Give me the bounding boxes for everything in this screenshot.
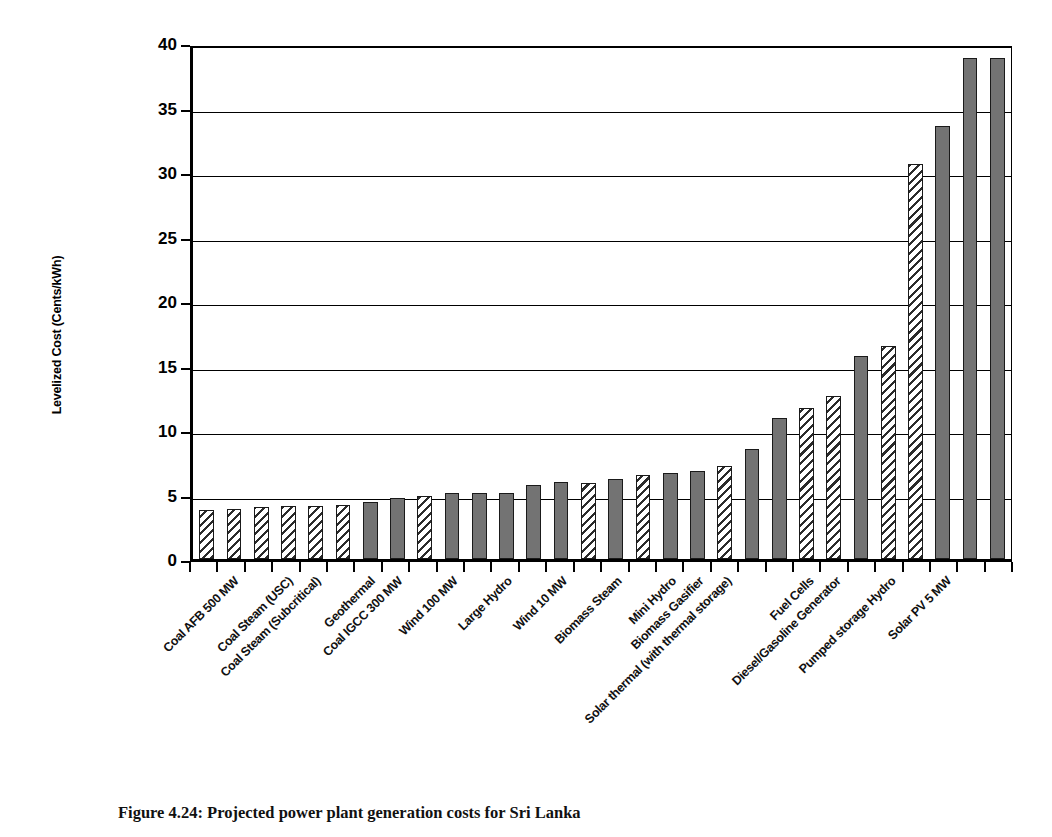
bar [799,408,814,559]
x-tick-mark [272,562,299,573]
bar [636,475,651,559]
x-tick-mark [957,562,984,573]
bar-slot [384,47,411,559]
x-axis-ticks [190,562,1012,573]
bar-slot [711,47,738,559]
bar-slot [302,47,329,559]
bar [935,126,950,559]
plot-area [190,46,1012,562]
x-axis-category-label: Wind 10 MW [510,574,569,633]
bar [281,506,296,559]
x-tick-mark [738,562,765,573]
bar [908,164,923,559]
bar [881,346,896,559]
y-tick-mark [181,303,190,305]
x-tick-mark [574,562,601,573]
x-tick-mark [656,562,683,573]
y-tick-label: 35 [158,100,177,120]
bar [663,473,678,559]
bar-slot [602,47,629,559]
x-tick-mark [327,562,354,573]
bar-slot [902,47,929,559]
x-tick-mark [848,562,875,573]
x-tick-mark [711,562,738,573]
x-tick-mark [930,562,957,573]
bar [227,509,242,559]
bar [690,471,705,559]
bar-slot [820,47,847,559]
x-tick-mark [601,562,628,573]
bar-slot [438,47,465,559]
x-tick-mark [245,562,272,573]
bar [526,485,541,559]
figure-caption: Figure 4.24: Projected power plant gener… [118,800,948,826]
bar [772,418,787,559]
bar [472,493,487,559]
bar-slot [547,47,574,559]
bar [363,502,378,559]
bar [963,58,978,559]
y-tick-label: 5 [168,487,177,507]
bar-series [193,47,1011,559]
bar [336,505,351,559]
bar-slot [657,47,684,559]
bar-slot [220,47,247,559]
bar-slot [684,47,711,559]
bar-slot [738,47,765,559]
x-tick-mark [985,562,1012,573]
bar-slot [493,47,520,559]
bar [445,493,460,559]
y-tick-label: 10 [158,422,177,442]
x-tick-mark [382,562,409,573]
x-axis-category-label: Wind 100 MW [396,574,460,638]
x-tick-mark [354,562,381,573]
x-tick-mark [464,562,491,573]
bar [745,449,760,559]
y-tick-label: 40 [158,35,177,55]
bar [717,466,732,559]
y-tick-mark [181,174,190,176]
figure-page: Levelized Cost (Cents/kWh) 0510152025303… [0,0,1052,837]
bar-slot [847,47,874,559]
bar-slot [629,47,656,559]
bar-slot [956,47,983,559]
bar-slot [766,47,793,559]
bar-slot [466,47,493,559]
x-tick-mark [190,562,217,573]
x-tick-mark [217,562,244,573]
bar [199,510,214,559]
bar [390,498,405,559]
bar-slot [248,47,275,559]
y-tick-mark [181,497,190,499]
bar-slot [329,47,356,559]
y-tick-label: 30 [158,164,177,184]
x-tick-mark [629,562,656,573]
x-tick-mark [875,562,902,573]
bar [554,482,569,559]
y-tick-label: 20 [158,293,177,313]
x-axis-category-label: Diesel/Gasoline Generator [730,574,844,688]
bar [499,493,514,559]
bar-slot [793,47,820,559]
x-tick-mark [519,562,546,573]
bar-slot [875,47,902,559]
x-tick-mark [683,562,710,573]
x-tick-mark [437,562,464,573]
y-tick-mark [181,110,190,112]
bar [826,396,841,559]
x-tick-mark [300,562,327,573]
x-tick-mark [546,562,573,573]
bar-slot [275,47,302,559]
bar-slot [575,47,602,559]
bar [581,483,596,559]
bar-slot [984,47,1011,559]
x-axis-labels: Coal AFB 500 MWCoal Steam (USC)Coal Stea… [190,574,1012,784]
x-tick-mark [903,562,930,573]
bar [308,506,323,559]
bar [854,356,869,559]
x-tick-mark [409,562,436,573]
y-tick-mark [181,368,190,370]
y-tick-label: 25 [158,229,177,249]
x-tick-mark [491,562,518,573]
x-axis-category-label: Pumped storage Hydro [796,574,898,676]
